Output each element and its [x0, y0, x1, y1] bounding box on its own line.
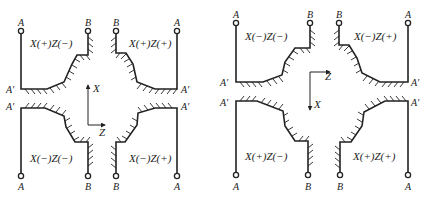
right-tr-quadrant-label: X(−)Z(+): [353, 30, 397, 43]
right-tr-corner-label: A′: [410, 77, 420, 88]
right-bottom-right-path: [335, 96, 408, 174]
right-tl-corner-label: A′: [219, 77, 229, 88]
left-x-axis-label: X: [92, 82, 101, 94]
machining-quadrant-diagram: A B B A A′ A′ A′ A′ A B B A X(+)Z(−) X(+…: [0, 0, 424, 197]
left-tr-end-label: B: [113, 17, 119, 28]
right-x-axis-label: X: [313, 98, 322, 110]
right-tr-start-label: A: [404, 9, 412, 20]
left-tr-corner-label: A′: [180, 84, 190, 95]
left-tl-quadrant-label: X(+)Z(−): [29, 37, 73, 50]
right-bl-start-label: A: [232, 181, 240, 192]
right-tl-end-label: B: [307, 9, 313, 20]
left-br-corner-label: A′: [180, 101, 190, 112]
left-tl-corner-label: A′: [5, 84, 15, 95]
left-bl-end-label: B: [85, 181, 91, 192]
left-bottom-left-path: [21, 103, 93, 175]
right-bl-end-label: B: [305, 181, 311, 192]
right-bl-quadrant-label: X(+)Z(−): [244, 150, 288, 163]
left-bl-start-label: A: [17, 181, 25, 192]
right-br-start-label: A: [404, 181, 412, 192]
right-br-quadrant-label: X(+)Z(+): [352, 150, 396, 163]
left-bottom-right-path: [111, 103, 177, 175]
right-z-axis-label: Z: [325, 70, 332, 82]
left-tl-start-label: A: [17, 17, 25, 28]
right-bottom-left-path: [236, 96, 313, 174]
left-br-end-label: B: [113, 181, 119, 192]
left-z-axis-label: Z: [99, 126, 106, 138]
left-tr-start-label: A: [173, 17, 181, 28]
left-bl-corner-label: A′: [5, 101, 15, 112]
left-tl-end-label: B: [85, 17, 91, 28]
right-bl-corner-label: A′: [219, 97, 229, 108]
left-br-start-label: A: [173, 181, 181, 192]
right-br-corner-label: A′: [410, 97, 420, 108]
left-br-quadrant-label: X(−)Z(+): [128, 152, 172, 165]
right-tl-start-label: A: [232, 9, 240, 20]
left-bl-quadrant-label: X(−)Z(−): [29, 152, 73, 165]
left-tr-quadrant-label: X(+)Z(+): [128, 37, 172, 50]
right-tr-end-label: B: [336, 9, 342, 20]
right-br-end-label: B: [337, 181, 343, 192]
right-tl-quadrant-label: X(−)Z(−): [244, 30, 288, 43]
